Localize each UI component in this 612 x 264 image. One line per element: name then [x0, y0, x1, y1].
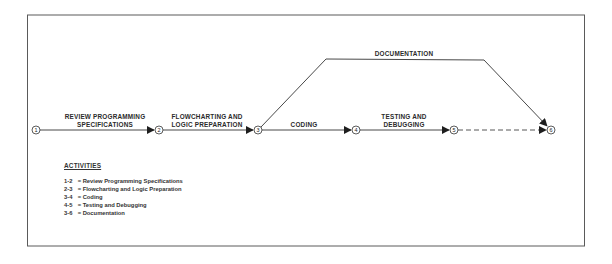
legend-code: 3-6	[64, 209, 76, 217]
legend-sep: =	[78, 186, 81, 192]
edge-label-4-5-line1: TESTING AND	[373, 113, 435, 121]
edge-label-1-2-line1: REVIEW PROGRAMMING	[60, 113, 150, 121]
legend-sep: =	[78, 202, 81, 208]
edge-label-4-5: TESTING AND DEBUGGING	[373, 113, 435, 128]
legend-sep: =	[78, 194, 81, 200]
legend-sep: =	[78, 178, 81, 184]
svg-text:4: 4	[354, 127, 357, 133]
node-4: 4	[352, 126, 360, 134]
svg-text:5: 5	[452, 127, 455, 133]
edge-label-4-5-line2: DEBUGGING	[373, 121, 435, 129]
edge-label-2-3: FLOWCHARTING AND LOGIC PREPARATION	[164, 113, 250, 128]
legend-code: 3-4	[64, 193, 76, 201]
legend-title: ACTIVITIES	[64, 162, 183, 169]
svg-text:6: 6	[549, 127, 552, 133]
edge-label-3-6: DOCUMENTATION	[364, 50, 444, 58]
edge-label-2-3-line2: LOGIC PREPARATION	[164, 121, 250, 129]
node-3: 3	[254, 126, 262, 134]
edge-label-2-3-line1: FLOWCHARTING AND	[164, 113, 250, 121]
node-2: 2	[155, 126, 163, 134]
activities-legend: ACTIVITIES 1-2 = Review Programming Spec…	[64, 162, 183, 217]
edge-label-3-4-line1: CODING	[276, 121, 332, 129]
edge-label-1-2-line2: SPECIFICATIONS	[60, 121, 150, 129]
legend-text: Review Programming Specifications	[83, 178, 183, 184]
edge-label-3-4: CODING	[276, 121, 332, 129]
legend-text: Documentation	[83, 210, 125, 216]
legend-text: Testing and Debugging	[83, 202, 147, 208]
legend-item: 3-6 = Documentation	[64, 209, 183, 217]
legend-item: 2-3 = Flowcharting and Logic Preparation	[64, 185, 183, 193]
node-5: 5	[450, 126, 458, 134]
edge-label-1-2: REVIEW PROGRAMMING SPECIFICATIONS	[60, 113, 150, 128]
node-1: 1	[32, 126, 40, 134]
legend-code: 1-2	[64, 177, 76, 185]
legend-text: Flowcharting and Logic Preparation	[83, 186, 182, 192]
pert-diagram: 1 2 3 4 5 6	[0, 0, 612, 264]
svg-text:2: 2	[157, 127, 160, 133]
legend-item: 1-2 = Review Programming Specifications	[64, 177, 183, 185]
legend-sep: =	[78, 210, 81, 216]
svg-text:1: 1	[34, 127, 37, 133]
legend-text: Coding	[83, 194, 103, 200]
legend-code: 4-5	[64, 201, 76, 209]
legend-item: 3-4 = Coding	[64, 193, 183, 201]
edge-label-3-6-line1: DOCUMENTATION	[364, 50, 444, 58]
svg-text:3: 3	[256, 127, 259, 133]
node-6: 6	[547, 126, 555, 134]
legend-item: 4-5 = Testing and Debugging	[64, 201, 183, 209]
legend-code: 2-3	[64, 185, 76, 193]
